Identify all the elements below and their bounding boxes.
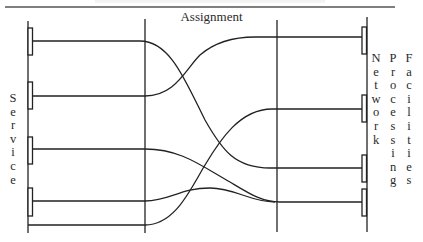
label-letter: c (10, 160, 16, 174)
connection-service2-facility1 (33, 37, 363, 96)
label-letter: F (406, 52, 413, 66)
facilities-label: Facilities (402, 52, 416, 188)
label-letter: i (11, 146, 14, 160)
network-label: Network (369, 52, 383, 147)
label-letter: o (390, 79, 396, 93)
facility-node-1 (362, 27, 367, 54)
connection-service5-facility2 (28, 109, 362, 225)
facility-node-4 (362, 189, 367, 216)
label-letter: g (390, 174, 396, 188)
service-node-2 (28, 82, 33, 109)
service-label: Service (6, 92, 20, 187)
label-letter: s (407, 174, 412, 188)
label-letter: e (10, 174, 16, 188)
connection-service4-facility4 (33, 188, 276, 202)
service-node-1 (28, 28, 33, 55)
label-letter: e (373, 66, 379, 80)
label-letter: t (374, 79, 377, 93)
label-letter: N (371, 52, 380, 66)
label-letter: c (390, 93, 396, 107)
label-letter: k (373, 134, 379, 148)
label-letter: n (390, 161, 396, 175)
facility-node-3 (362, 155, 367, 182)
service-node-4 (28, 188, 33, 216)
label-letter: r (374, 120, 378, 134)
label-letter: c (406, 79, 412, 93)
assignment-diagram: Assignment Service Network Processing Fa… (0, 0, 423, 242)
diagram-canvas (0, 0, 423, 242)
label-letter: a (406, 66, 412, 80)
label-letter: i (391, 147, 394, 161)
label-letter: e (406, 161, 412, 175)
label-letter: l (407, 106, 410, 120)
connection-service3-facility4 (33, 149, 363, 202)
label-letter: i (407, 147, 410, 161)
label-letter: e (10, 106, 16, 120)
service-node-3 (28, 137, 33, 164)
label-letter: v (10, 133, 16, 147)
label-letter: i (407, 120, 410, 134)
label-letter: S (10, 92, 17, 106)
label-letter: s (391, 134, 396, 148)
label-letter: P (390, 52, 397, 66)
facility-node-2 (362, 95, 367, 122)
label-letter: o (373, 106, 379, 120)
label-letter: s (391, 120, 396, 134)
assignment-title: Assignment (0, 9, 423, 25)
label-letter: r (11, 119, 15, 133)
label-letter: i (407, 93, 410, 107)
label-letter: e (390, 106, 396, 120)
label-letter: w (371, 93, 380, 107)
processing-label: Processing (386, 52, 400, 188)
label-letter: r (391, 66, 395, 80)
label-letter: t (407, 134, 410, 148)
